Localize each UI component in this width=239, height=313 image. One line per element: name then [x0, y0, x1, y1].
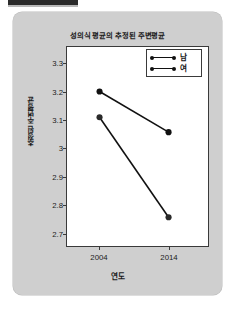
legend-line-marker-icon	[150, 65, 176, 72]
x-tick-label: 2004	[79, 253, 119, 262]
series-line-yeo	[100, 117, 169, 217]
series-point-nam-2004	[96, 88, 102, 94]
y-tick-label: 3.2	[39, 88, 63, 97]
series-point-yeo-2004	[96, 114, 102, 120]
series-point-nam-2014	[166, 129, 172, 135]
y-tick-label: 2.9	[39, 173, 63, 182]
series-point-yeo-2014	[166, 214, 172, 220]
y-tick-label: 2.7	[39, 230, 63, 239]
legend-label: 여	[180, 64, 187, 73]
legend: 남 여	[146, 49, 202, 77]
x-tick-label: 2014	[149, 253, 189, 262]
legend-item-nam: 남	[150, 52, 198, 63]
legend-line-marker-icon	[150, 54, 176, 61]
legend-item-yeo: 여	[150, 63, 198, 74]
figure-card: 성의식 평균의 추정된 주변평균 추정된 주변평균 3.3 3.2 3.1 3 …	[13, 12, 222, 295]
x-tick-mark	[169, 247, 170, 250]
chart-title: 성의식 평균의 추정된 주변평균	[13, 29, 222, 40]
x-tick-mark	[99, 247, 100, 250]
y-tick-label: 3	[39, 144, 63, 153]
y-tick-label: 2.8	[39, 201, 63, 210]
series-line-nam	[100, 92, 169, 133]
legend-label: 남	[180, 53, 187, 62]
scan-artifact-shadow	[8, 5, 78, 7]
y-tick-label: 3.3	[39, 59, 63, 68]
y-tick-label: 3.1	[39, 116, 63, 125]
x-axis-title: 연도	[13, 270, 222, 281]
